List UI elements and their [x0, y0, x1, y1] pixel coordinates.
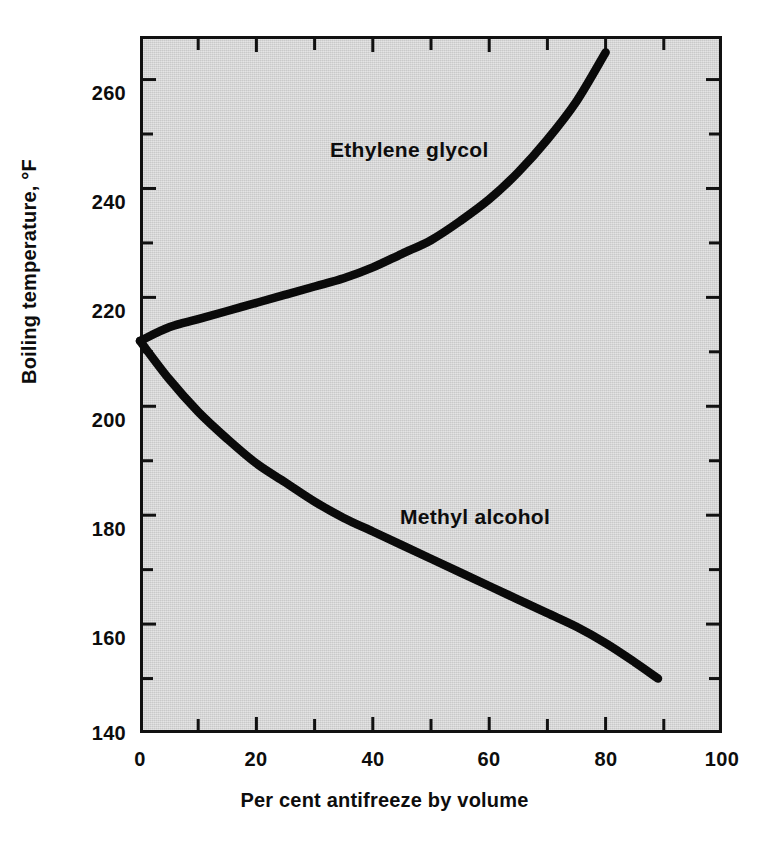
x-tick-label-20: 20: [245, 748, 268, 771]
x-tick-label-40: 40: [362, 748, 385, 771]
series-line-ethylene-glycol: [140, 52, 606, 341]
y-axis-ticks-right: [706, 80, 722, 679]
x-axis-title: Per cent antifreeze by volume: [0, 789, 769, 812]
x-axis-ticks-top: [198, 36, 664, 52]
series-line-methyl-alcohol: [140, 341, 658, 679]
y-axis-title: Boiling temperature, °F: [18, 159, 41, 384]
y-tick-label-160: 160: [68, 627, 126, 650]
x-tick-label-100: 100: [705, 748, 739, 771]
x-tick-label-80: 80: [595, 748, 618, 771]
x-tick-label-0: 0: [134, 748, 145, 771]
y-tick-label-240: 240: [68, 191, 126, 214]
x-axis-ticks-bottom: [198, 717, 664, 733]
series-annotation-ethylene-glycol: Ethylene glycol: [330, 138, 489, 162]
chart-figure: 260 240 220 200 180 160 140 0 20 40 60 8…: [0, 0, 769, 850]
y-axis-ticks-left: [140, 80, 156, 679]
y-tick-label-260: 260: [68, 82, 126, 105]
y-tick-label-220: 220: [68, 300, 126, 323]
y-tick-label-180: 180: [68, 518, 126, 541]
series-annotation-methyl-alcohol: Methyl alcohol: [400, 505, 550, 529]
x-tick-label-60: 60: [478, 748, 501, 771]
y-tick-label-140: 140: [68, 722, 126, 745]
y-tick-label-200: 200: [68, 409, 126, 432]
